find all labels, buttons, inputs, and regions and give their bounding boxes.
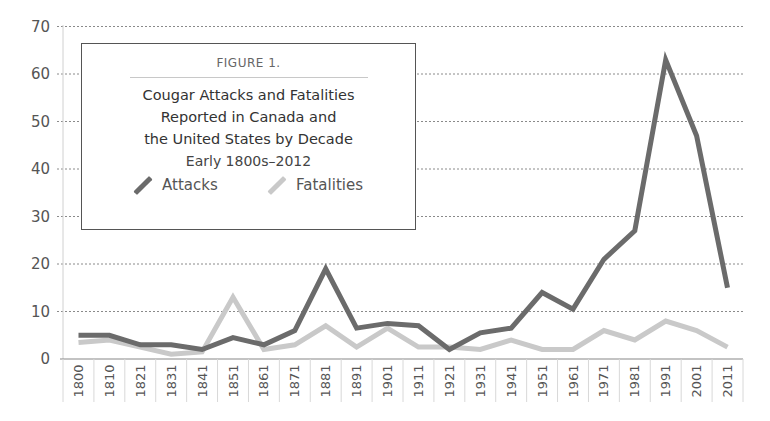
x-tick-label: 1971 bbox=[596, 364, 611, 397]
x-tick-label: 1831 bbox=[164, 364, 179, 397]
x-tick-label: 1841 bbox=[195, 364, 210, 397]
x-tick-label: 1871 bbox=[287, 364, 302, 397]
legend-label-attacks: Attacks bbox=[162, 176, 218, 194]
y-tick-label: 60 bbox=[31, 65, 50, 83]
chart-title-line-1: Cougar Attacks and Fatalities bbox=[82, 84, 415, 106]
legend: Attacks Fatalities bbox=[82, 176, 415, 194]
title-divider bbox=[130, 77, 368, 78]
y-tick-label: 0 bbox=[40, 350, 50, 368]
x-axis-ticks: 1800181018211831184118511861187118811891… bbox=[63, 359, 743, 402]
legend-item-fatalities: Fatalities bbox=[266, 176, 363, 194]
fatalities-swatch-icon bbox=[268, 175, 287, 194]
chart-subtitle: Early 1800s–2012 bbox=[82, 150, 415, 172]
attacks-swatch-icon bbox=[133, 175, 152, 194]
legend-item-attacks: Attacks bbox=[132, 176, 218, 194]
x-tick-label: 2001 bbox=[689, 364, 704, 397]
x-tick-label: 1851 bbox=[226, 364, 241, 397]
x-tick-label: 1800 bbox=[71, 364, 86, 397]
figure-label: FIGURE 1. bbox=[82, 56, 415, 70]
x-tick-label: 1921 bbox=[442, 364, 457, 397]
x-tick-label: 1881 bbox=[318, 364, 333, 397]
x-tick-label: 1891 bbox=[349, 364, 364, 397]
x-tick-label: 1861 bbox=[256, 364, 271, 397]
chart-title-line-2: Reported in Canada and bbox=[82, 106, 415, 128]
x-tick-label: 1961 bbox=[566, 364, 581, 397]
x-tick-label: 1941 bbox=[504, 364, 519, 397]
y-tick-label: 50 bbox=[31, 113, 50, 131]
x-tick-label: 1991 bbox=[658, 364, 673, 397]
y-tick-label: 30 bbox=[31, 208, 50, 226]
legend-title-box: FIGURE 1. Cougar Attacks and Fatalities … bbox=[81, 43, 416, 230]
x-tick-label: 1931 bbox=[473, 364, 488, 397]
y-tick-label: 70 bbox=[31, 18, 50, 36]
y-tick-label: 20 bbox=[31, 255, 50, 273]
x-tick-label: 2011 bbox=[720, 364, 735, 397]
x-tick-label: 1981 bbox=[627, 364, 642, 397]
y-tick-label: 10 bbox=[31, 303, 50, 321]
x-tick-label: 1901 bbox=[380, 364, 395, 397]
x-tick-label: 1951 bbox=[535, 364, 550, 397]
y-axis-ticks: 010203040506070 bbox=[31, 18, 50, 369]
y-tick-label: 40 bbox=[31, 160, 50, 178]
chart-title-line-3: the United States by Decade bbox=[82, 128, 415, 150]
x-tick-label: 1821 bbox=[133, 364, 148, 397]
legend-label-fatalities: Fatalities bbox=[296, 176, 363, 194]
x-tick-label: 1911 bbox=[411, 364, 426, 397]
x-tick-label: 1810 bbox=[102, 364, 117, 397]
